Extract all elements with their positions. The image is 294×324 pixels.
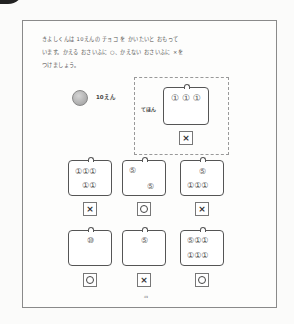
wallet-5: ⑤ <box>122 230 166 266</box>
example-label: てほん <box>141 105 156 112</box>
answer-box-4[interactable] <box>83 273 97 287</box>
answer-box-6[interactable] <box>195 273 209 287</box>
instruction-line-1: きよしくんは 10えんの チョコ を かいたいと おもって <box>42 33 232 46</box>
answer-box-1[interactable]: × <box>83 202 97 216</box>
coins-top: ①①① <box>75 168 97 176</box>
instruction-line-3: つけましょう。 <box>42 59 232 72</box>
wallet-1: ①①① ①① <box>68 160 112 196</box>
coins-top: ① ① ① <box>171 94 201 102</box>
wallet-3: ⑤ ①①① <box>180 160 224 196</box>
wallet-6: ⑤①① ①①① <box>180 230 224 266</box>
coins-top: ⑩ <box>87 237 94 245</box>
instruction-line-2: います。かえる おさいふに ○、かえない おさいふに ×を <box>42 46 232 59</box>
example-area: てほん ① ① ① × <box>134 77 229 155</box>
answer-box-5[interactable]: × <box>137 273 151 287</box>
coins-top: ⑤ <box>199 168 206 176</box>
corner-tab <box>0 0 24 4</box>
coins-bottom: ①①① <box>187 252 209 260</box>
answer-box-2[interactable] <box>137 202 151 216</box>
wallet-4: ⑩ <box>68 230 112 266</box>
answer-box-3[interactable]: × <box>195 202 209 216</box>
page-number: 49 <box>144 295 148 299</box>
coins-bottom: ①①① <box>187 182 209 190</box>
coins-top: ⑤①① <box>187 237 209 245</box>
coins-bottom: ①① <box>82 182 96 190</box>
coins-top: ⑤ <box>141 237 148 245</box>
wallet-2: ⑤ ⑤ <box>122 160 166 196</box>
price-label: 10えん <box>96 93 116 101</box>
coins-bottom: ⑤ <box>147 183 154 191</box>
instruction-text: きよしくんは 10えんの チョコ を かいたいと おもって います。かえる おさ… <box>42 33 232 72</box>
10-yen-coin-icon <box>72 90 88 106</box>
example-answer-box[interactable]: × <box>179 131 193 145</box>
example-wallet: ① ① ① <box>163 87 209 125</box>
coins-top: ⑤ <box>129 167 136 175</box>
